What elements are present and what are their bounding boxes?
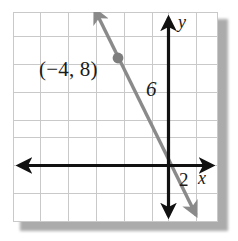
y-axis-name-label: y (178, 13, 186, 31)
data-point-marker (113, 53, 124, 64)
panel-border (14, 13, 218, 222)
graph-svg (13, 12, 218, 222)
coordinate-plane-figure: (−4, 8) 6 2 x y (0, 0, 238, 241)
x-axis-tick-label-2: 2 (179, 170, 189, 189)
x-axis-name-label: x (198, 169, 206, 187)
point-coordinate-label: (−4, 8) (39, 59, 98, 80)
graph-panel (13, 12, 218, 222)
y-axis-tick-label-6: 6 (146, 79, 157, 100)
